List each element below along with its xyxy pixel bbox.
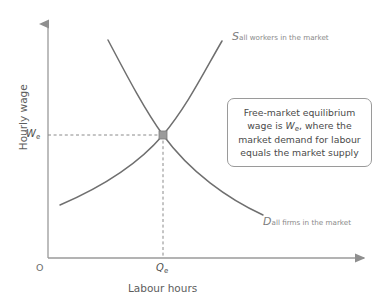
callout-line-2-suffix: , where the	[299, 120, 352, 131]
callout-line-2-prefix: wage is	[247, 120, 285, 131]
labour-market-equilibrium-figure: Hourly wage Labour hours O We Qe Sall wo…	[0, 0, 390, 303]
supply-curve-subscript: all workers in the market	[239, 33, 329, 42]
demand-curve-label: Dall firms in the market	[263, 216, 351, 227]
equilibrium-callout-box: Free-market equilibriumwage is We, where…	[227, 98, 372, 167]
equilibrium-point-marker	[159, 131, 167, 139]
callout-line-4: equals the market supply	[240, 147, 358, 158]
x-tick-subscript: e	[164, 267, 168, 275]
supply-curve-letter: S	[232, 30, 239, 43]
equilibrium-callout-text: Free-market equilibriumwage is We, where…	[233, 106, 365, 160]
x-tick-label-qe: Qe	[156, 263, 168, 273]
y-tick-symbol: W	[26, 128, 36, 139]
demand-curve-subscript: all firms in the market	[271, 218, 351, 227]
y-tick-label-we: We	[26, 129, 40, 139]
origin-label: O	[36, 263, 43, 273]
y-axis-title: Hourly wage	[18, 72, 29, 162]
x-tick-symbol: Q	[156, 262, 164, 273]
callout-line-1: Free-market equilibrium	[244, 107, 356, 118]
x-axis-title: Labour hours	[128, 283, 197, 294]
y-tick-subscript: e	[36, 133, 40, 141]
callout-line-3: market demand for labour	[238, 134, 360, 145]
supply-curve-label: Sall workers in the market	[232, 31, 329, 42]
callout-line-2-symbol: W	[286, 120, 295, 131]
supply-curve	[60, 41, 222, 205]
callout-line-2-subscript: e	[295, 125, 299, 133]
